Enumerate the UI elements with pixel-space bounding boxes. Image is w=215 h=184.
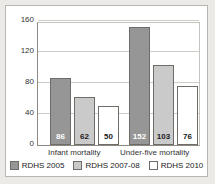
chart-plot-region: 160 120 80 40 0 86 62 bbox=[6, 6, 209, 156]
category-label-infant-mortality: Infant mortality bbox=[48, 149, 100, 157]
ytick-label-40: 40 bbox=[25, 109, 34, 117]
bar-value-label: 62 bbox=[80, 133, 89, 144]
bar-infant-rdhs-2007-08[interactable]: 62 bbox=[74, 97, 95, 145]
bar-underfive-rdhs-2007-08[interactable]: 103 bbox=[153, 65, 174, 145]
ytick-label-160: 160 bbox=[21, 16, 34, 24]
legend-swatch-icon bbox=[73, 161, 82, 170]
legend-swatch-icon bbox=[10, 161, 19, 170]
plot-area: 160 120 80 40 0 86 62 bbox=[37, 22, 200, 146]
legend-label: RDHS 2010 bbox=[161, 162, 204, 170]
bar-value-label: 76 bbox=[183, 133, 192, 144]
legend-swatch-icon bbox=[149, 161, 158, 170]
gridline-160: 160 bbox=[38, 20, 199, 21]
legend-item-rdhs-2005[interactable]: RDHS 2005 bbox=[10, 161, 65, 170]
bar-infant-rdhs-2010[interactable]: 50 bbox=[98, 106, 119, 145]
legend-item-rdhs-2010[interactable]: RDHS 2010 bbox=[149, 161, 204, 170]
bar-value-label: 103 bbox=[157, 133, 170, 144]
chart-legend: RDHS 2005 RDHS 2007-08 RDHS 2010 bbox=[6, 161, 207, 170]
bar-underfive-rdhs-2010[interactable]: 76 bbox=[177, 86, 198, 145]
legend-label: RDHS 2005 bbox=[22, 162, 65, 170]
bar-value-label: 86 bbox=[56, 133, 65, 144]
bar-series-container: 86 62 50 152 103 bbox=[38, 23, 199, 145]
bar-group-under-five-mortality: 152 103 76 bbox=[129, 23, 198, 145]
legend-label: RDHS 2007-08 bbox=[85, 162, 139, 170]
legend-item-rdhs-2007-08[interactable]: RDHS 2007-08 bbox=[73, 161, 139, 170]
ytick-label-0: 0 bbox=[30, 140, 34, 148]
ytick-label-80: 80 bbox=[25, 78, 34, 86]
category-label-under-five-mortality: Under-five mortality bbox=[120, 149, 189, 157]
ytick-label-120: 120 bbox=[21, 47, 34, 55]
bar-value-label: 152 bbox=[133, 133, 146, 144]
bar-underfive-rdhs-2005[interactable]: 152 bbox=[129, 27, 150, 145]
bar-infant-rdhs-2005[interactable]: 86 bbox=[50, 78, 71, 145]
chart-figure: 160 120 80 40 0 86 62 bbox=[5, 5, 208, 177]
bar-value-label: 50 bbox=[104, 133, 113, 144]
bar-group-infant-mortality: 86 62 50 bbox=[50, 23, 119, 145]
